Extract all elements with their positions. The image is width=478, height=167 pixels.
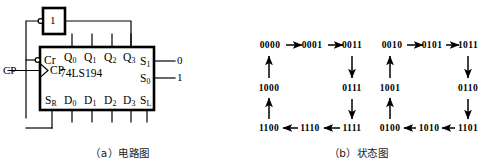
caption-state-diagram: （b）状态图 [240, 145, 477, 160]
state-node: 1100 [259, 123, 279, 133]
tie-value-s0: 1 [177, 72, 183, 83]
caption-circuit-diagram: （a）电路图 [0, 145, 240, 160]
state-diagram-panel: 0000 0001 0011 0111 1111 1110 1100 1000 … [240, 0, 477, 167]
gate-label: 1 [50, 15, 56, 26]
pin-label-q1: Q1 [84, 52, 96, 64]
state-node: 0110 [458, 83, 478, 93]
state-node: 0101 [422, 40, 443, 50]
state-node: 1101 [458, 123, 478, 133]
pin-label-sr: SR [45, 95, 57, 107]
pin-label-d0: D0 [64, 95, 76, 107]
state-node: 0011 [342, 40, 362, 50]
state-node: 1110 [300, 123, 320, 133]
pin-label-q2: Q2 [104, 52, 116, 64]
gate-input-bubble-icon [38, 19, 43, 24]
chip-name-label: 74LS194 [60, 68, 102, 80]
pin-label-d1: D1 [84, 95, 96, 107]
wire-feedback-rail [26, 21, 38, 118]
circuit-schematic-svg [0, 0, 240, 145]
pin-label-q3: Q3 [123, 52, 135, 64]
input-label-cp: CP [3, 65, 16, 76]
state-node: 1000 [259, 83, 280, 93]
pin-label-s0: S0 [140, 73, 151, 85]
pin-label-cp: CP [50, 65, 64, 77]
state-node: 0111 [342, 83, 362, 93]
tie-value-s1: 0 [177, 55, 183, 66]
state-node: 1001 [380, 83, 401, 93]
state-node: 1010 [419, 123, 440, 133]
state-node: 1111 [342, 123, 361, 133]
pin-label-s1: S1 [140, 56, 151, 68]
pin-label-d2: D2 [104, 95, 116, 107]
cr-inversion-bubble-icon [35, 58, 40, 63]
pin-label-sl: SL [140, 95, 151, 107]
wire-gate-out-to-q3 [65, 21, 131, 47]
state-node: 1011 [458, 40, 478, 50]
state-node: 0010 [382, 40, 403, 50]
state-node: 0001 [302, 40, 323, 50]
state-node: 0100 [380, 123, 401, 133]
circuit-diagram-panel: 1 74LS194 Q0 Q1 Q2 Q3 Cr CP S1 S0 SR D0 … [0, 0, 240, 167]
state-node: 0000 [260, 40, 281, 50]
pin-label-d3: D3 [123, 95, 135, 107]
pin-label-q0: Q0 [64, 52, 76, 64]
